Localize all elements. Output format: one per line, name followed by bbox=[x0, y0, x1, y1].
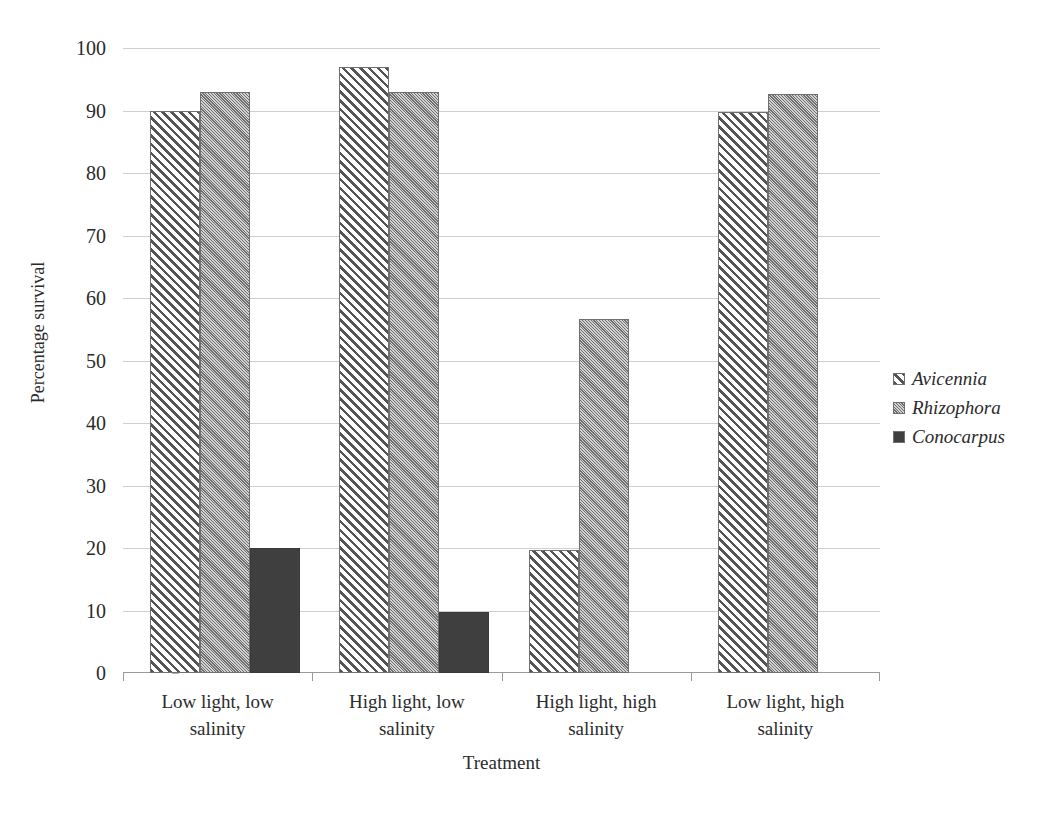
bar-conocarpus-group-2 bbox=[439, 612, 489, 673]
x-axis-label-line: Low light, high bbox=[691, 688, 880, 715]
y-axis-tick-label: 100 bbox=[76, 38, 106, 58]
x-axis-tick-mark bbox=[879, 673, 880, 681]
x-axis-label-line: salinity bbox=[312, 715, 501, 742]
bar-rhizophora-group-1 bbox=[200, 92, 250, 673]
y-axis-tick-label: 60 bbox=[86, 288, 106, 308]
legend-item-conocarpus[interactable]: Conocarpus bbox=[893, 422, 1053, 451]
x-axis-label-3: High light, highsalinity bbox=[502, 688, 691, 742]
y-axis-title: Percentage survival bbox=[28, 233, 49, 433]
chart-legend: AvicenniaRhizophoraConocarpus bbox=[893, 364, 1053, 451]
bar-avicennia-group-2 bbox=[339, 67, 389, 673]
x-axis-label-line: High light, high bbox=[502, 688, 691, 715]
y-axis-tick-label: 50 bbox=[86, 351, 106, 371]
bar-avicennia-group-4 bbox=[718, 112, 768, 673]
legend-swatch-icon bbox=[893, 402, 905, 414]
gridline bbox=[123, 48, 880, 49]
y-axis-tick-label: 80 bbox=[86, 163, 106, 183]
x-axis-label-line: salinity bbox=[691, 715, 880, 742]
bar-rhizophora-group-4 bbox=[768, 94, 818, 673]
y-axis-tick-label: 90 bbox=[86, 101, 106, 121]
y-axis-tick-label: 70 bbox=[86, 226, 106, 246]
bar-avicennia-group-1 bbox=[150, 111, 200, 674]
x-axis-label-line: Low light, low bbox=[123, 688, 312, 715]
legend-item-rhizophora[interactable]: Rhizophora bbox=[893, 393, 1053, 422]
legend-label: Rhizophora bbox=[912, 397, 1001, 419]
x-axis-tick-mark bbox=[502, 673, 503, 681]
x-axis-label-line: salinity bbox=[123, 715, 312, 742]
bar-rhizophora-group-2 bbox=[389, 92, 439, 673]
y-axis-tick-label: 40 bbox=[86, 413, 106, 433]
y-axis-tick-label: 30 bbox=[86, 476, 106, 496]
legend-item-avicennia[interactable]: Avicennia bbox=[893, 364, 1053, 393]
x-axis-label-line: salinity bbox=[502, 715, 691, 742]
x-axis-title: Treatment bbox=[123, 752, 880, 774]
legend-swatch-icon bbox=[893, 431, 905, 443]
x-axis-tick-mark bbox=[312, 673, 313, 681]
x-axis-label-line: High light, low bbox=[312, 688, 501, 715]
bar-rhizophora-group-3 bbox=[579, 319, 629, 673]
y-axis-tick-labels: 0102030405060708090100 bbox=[56, 48, 112, 673]
bar-avicennia-group-3 bbox=[529, 550, 579, 673]
y-axis-tick-mark bbox=[172, 673, 179, 674]
y-axis-tick-label: 10 bbox=[86, 601, 106, 621]
x-axis-label-1: Low light, lowsalinity bbox=[123, 688, 312, 742]
legend-label: Conocarpus bbox=[912, 426, 1005, 448]
x-axis-tick-mark bbox=[691, 673, 692, 681]
y-axis-tick-label: 0 bbox=[96, 663, 106, 683]
x-axis-tick-mark bbox=[123, 673, 124, 681]
y-axis-tick-label: 20 bbox=[86, 538, 106, 558]
bar-chart: Percentage survival 01020304050607080901… bbox=[0, 0, 1060, 818]
x-axis-label-4: Low light, highsalinity bbox=[691, 688, 880, 742]
x-axis-tick-labels: Low light, lowsalinityHigh light, lowsal… bbox=[123, 688, 880, 746]
x-axis-label-2: High light, lowsalinity bbox=[312, 688, 501, 742]
legend-label: Avicennia bbox=[912, 368, 987, 390]
plot-area bbox=[123, 48, 880, 673]
legend-swatch-icon bbox=[893, 373, 905, 385]
bar-conocarpus-group-1 bbox=[250, 548, 300, 673]
